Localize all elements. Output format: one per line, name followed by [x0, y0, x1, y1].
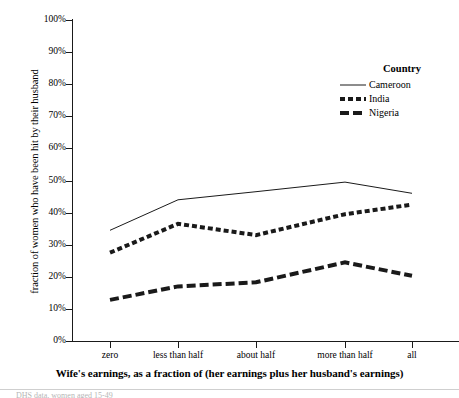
y-tick-label: 10% [30, 304, 66, 314]
y-tick-label: 90% [30, 47, 66, 57]
x-tick-mark [256, 342, 257, 348]
y-tick-mark [66, 52, 72, 53]
y-tick-mark [66, 20, 72, 21]
y-tick-label: 20% [30, 272, 66, 282]
x-tick-label: more than half [317, 350, 372, 361]
x-axis-title: Wife's earnings, as a fraction of (her e… [0, 367, 459, 379]
x-tick-mark [110, 342, 111, 348]
legend-swatch-nigeria [340, 107, 366, 119]
x-tick-mark [412, 342, 413, 348]
y-tick-label: 100% [30, 15, 66, 25]
y-tick-mark [66, 148, 72, 149]
y-tick-label: 60% [30, 143, 66, 153]
legend-entry-nigeria: Nigeria [340, 106, 458, 119]
x-tick-label: all [407, 350, 417, 361]
legend-entries: CameroonIndiaNigeria [340, 78, 458, 119]
page-divider [0, 389, 459, 390]
y-tick-mark [66, 309, 72, 310]
x-tick-mark [345, 342, 346, 348]
legend-label: Nigeria [369, 107, 399, 118]
legend-entry-cameroon: Cameroon [340, 78, 458, 91]
x-tick-label: zero [102, 350, 118, 361]
line-chart: fraction of women who have been hit by t… [0, 0, 459, 398]
y-tick-mark [66, 213, 72, 214]
y-tick-label: 30% [30, 240, 66, 250]
y-tick-label: 50% [30, 176, 66, 186]
series-line-cameroon [110, 182, 412, 230]
x-tick-label: less than half [153, 350, 203, 361]
y-tick-mark [66, 341, 72, 342]
y-tick-label: 40% [30, 208, 66, 218]
y-tick-mark [66, 245, 72, 246]
y-tick-label: 70% [30, 111, 66, 121]
legend-label: India [369, 93, 390, 104]
legend-line-glyph [340, 107, 366, 119]
y-tick-mark [66, 277, 72, 278]
x-tick-label: about half [237, 350, 275, 361]
legend-swatch-cameroon [340, 79, 366, 91]
legend: Country CameroonIndiaNigeria [340, 63, 458, 120]
y-tick-label: 80% [30, 79, 66, 89]
y-tick-mark [66, 84, 72, 85]
legend-label: Cameroon [369, 79, 411, 90]
legend-line-glyph [340, 79, 366, 91]
y-tick-mark [66, 181, 72, 182]
y-axis-tick-labels: 0%10%20%30%40%50%60%70%80%90%100% [28, 0, 66, 398]
series-line-india [110, 205, 412, 253]
x-tick-mark [178, 342, 179, 348]
legend-entry-india: India [340, 92, 458, 105]
x-axis-line [72, 341, 459, 342]
cut-off-caption: DHS data, women aged 15-49 [16, 391, 113, 398]
legend-line-glyph [340, 93, 366, 105]
y-tick-mark [66, 116, 72, 117]
legend-title: Country [340, 63, 458, 74]
series-line-nigeria [110, 262, 412, 300]
y-tick-label: 0% [30, 336, 66, 346]
legend-swatch-india [340, 93, 366, 105]
